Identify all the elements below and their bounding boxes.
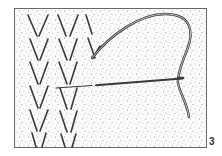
stitch-illustration [0,0,222,156]
figure-number: 3 [209,136,215,147]
